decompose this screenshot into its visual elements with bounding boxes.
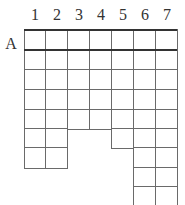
grid-cell-1-1 (24, 29, 46, 51)
grid-cell-1-5 (24, 109, 46, 130)
grid-cell-7-6 (155, 128, 178, 149)
grid-cell-5-4 (111, 89, 134, 111)
grid-cell-1-7 (24, 147, 46, 169)
grid-cell-6-2 (133, 49, 156, 71)
grid-cell-6-7 (133, 147, 156, 169)
column-label-3: 3 (68, 5, 90, 25)
column-label-6: 6 (134, 5, 156, 25)
grid-cell-2-4 (45, 89, 68, 111)
grid-cell-7-7 (155, 147, 178, 169)
grid-cell-3-3 (67, 69, 90, 91)
grid-cell-4-2 (89, 49, 112, 71)
grid-cell-2-5 (45, 109, 68, 130)
grid-cell-2-1 (45, 29, 68, 51)
grid-cell-6-9 (133, 186, 156, 205)
grid-cell-6-4 (133, 89, 156, 111)
grid-cell-1-3 (24, 69, 46, 91)
grid-cell-4-5 (89, 109, 112, 130)
grid-cell-5-3 (111, 69, 134, 91)
grid-cell-7-1 (155, 29, 178, 51)
column-label-2: 2 (46, 5, 68, 25)
grid-cell-7-5 (155, 109, 178, 130)
header-row-divider (24, 49, 177, 51)
grid-cell-1-6 (24, 128, 46, 149)
grid-cell-6-6 (133, 128, 156, 149)
grid-cell-4-4 (89, 89, 112, 111)
grid-cell-1-2 (24, 49, 46, 71)
grid-cell-5-6 (111, 128, 134, 149)
row-label-a: A (3, 34, 19, 54)
grid-cell-3-4 (67, 89, 90, 111)
grid-cell-3-1 (67, 29, 90, 51)
grid-cell-4-1 (89, 29, 112, 51)
grid-cell-5-1 (111, 29, 134, 51)
grid-cell-3-2 (67, 49, 90, 71)
grid-cell-7-9 (155, 186, 178, 205)
grid-cell-2-2 (45, 49, 68, 71)
grid-cell-5-5 (111, 109, 134, 130)
grid-cell-7-8 (155, 167, 178, 188)
grid-cell-6-3 (133, 69, 156, 91)
grid-cell-7-3 (155, 69, 178, 91)
grid-cell-6-8 (133, 167, 156, 188)
grid-cell-2-6 (45, 128, 68, 149)
grid-cell-6-1 (133, 29, 156, 51)
grid-cell-2-3 (45, 69, 68, 91)
grid-cell-1-4 (24, 89, 46, 111)
grid-cell-3-5 (67, 109, 90, 130)
column-label-7: 7 (156, 5, 178, 25)
grid-cell-5-2 (111, 49, 134, 71)
grid-cell-7-4 (155, 89, 178, 111)
grid-cell-2-7 (45, 147, 68, 169)
grid-cell-6-5 (133, 109, 156, 130)
column-label-4: 4 (90, 5, 112, 25)
column-label-1: 1 (24, 5, 46, 25)
grid-top-border (24, 29, 177, 31)
grid-cell-4-3 (89, 69, 112, 91)
column-label-5: 5 (112, 5, 134, 25)
grid-cell-7-2 (155, 49, 178, 71)
